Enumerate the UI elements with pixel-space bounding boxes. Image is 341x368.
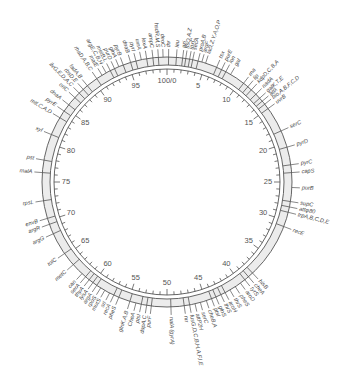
gene-leader-line (77, 274, 82, 280)
minute-label: 10 (222, 95, 230, 104)
minute-tick (237, 266, 239, 269)
gene-leader-line (231, 68, 235, 75)
gene-label: nalA (gyrA) (169, 317, 176, 345)
gene-leader-line (253, 273, 258, 279)
gene-leader-line (36, 201, 44, 202)
gene-leader-line (284, 227, 291, 230)
minute-tick (207, 77, 208, 80)
minute-label: 45 (194, 273, 202, 282)
gene-leader-line (152, 50, 153, 58)
gene-leader-line (78, 83, 83, 89)
minute-tick (226, 274, 228, 277)
minute-tick (106, 87, 108, 90)
gene-leader-line (221, 295, 224, 302)
minute-tick (62, 222, 65, 223)
gene-label: pyrC (299, 158, 313, 166)
gene-leader-line (260, 93, 266, 98)
minute-tick (76, 116, 81, 120)
minute-label: 35 (245, 236, 253, 245)
minute-tick (125, 77, 126, 80)
minute-tick (251, 252, 254, 254)
gene-leader-line (134, 303, 136, 311)
minute-tick (139, 288, 140, 291)
gene-leader-line (96, 288, 100, 295)
minute-tick (263, 235, 266, 237)
gene-leader-line (287, 145, 295, 147)
gene-leader-line (245, 280, 250, 286)
minute-tick (273, 209, 276, 210)
gene-leader-line (82, 80, 87, 86)
minute-tick (188, 71, 189, 74)
gene-leader-line (74, 87, 80, 93)
minute-tick (56, 203, 59, 204)
minute-tick (200, 284, 202, 290)
minute-tick (194, 288, 195, 291)
minute-tick (254, 245, 259, 249)
band-fill (46, 61, 288, 303)
minute-ticks (54, 69, 280, 295)
minute-tick (237, 95, 239, 98)
band-inner-ring (50, 65, 284, 299)
gene-band (42, 57, 292, 307)
minute-tick (269, 147, 275, 149)
minute-tick (266, 229, 269, 230)
minute-tick (207, 284, 208, 287)
minute-tick (90, 262, 92, 265)
gene-leader-line (244, 77, 249, 83)
gene-leader-line (36, 159, 44, 160)
gene-label: malA (19, 167, 32, 174)
gene-leader-line (268, 104, 274, 109)
gene-leader-line (128, 55, 130, 63)
minute-tick (214, 80, 215, 83)
gene-leader-line (42, 224, 50, 227)
gene-leader-line (183, 50, 184, 58)
gene-leader-line (212, 299, 215, 306)
minute-tick (251, 110, 254, 112)
gene-leader-line (107, 63, 111, 70)
minute-label: 5 (196, 81, 200, 90)
minute-tick (273, 154, 276, 155)
minute-label: 85 (81, 118, 89, 127)
minute-label: 90 (103, 95, 111, 104)
minute-label: 15 (245, 118, 253, 127)
gene-leader-line (225, 293, 229, 300)
minute-tick (259, 121, 262, 123)
gene-leader-line (206, 56, 208, 64)
minute-tick (188, 290, 189, 293)
gene-leader-line (195, 304, 197, 312)
minute-tick (263, 128, 266, 130)
gene-label: capS (301, 167, 314, 174)
gene-leader-line (57, 107, 64, 112)
minute-tick (85, 257, 88, 259)
gene-label: rpsL (22, 199, 34, 207)
minute-tick (72, 241, 75, 243)
minute-tick (125, 284, 126, 287)
minute-tick (259, 241, 262, 243)
minute-label: 50 (163, 278, 171, 287)
minute-tick (56, 161, 59, 162)
gene-leader-line (67, 265, 73, 270)
gene-leader-line (88, 283, 93, 289)
gene-leader-line (193, 52, 195, 60)
gene-leader-line (222, 62, 225, 69)
gene-leader-line (44, 131, 51, 134)
gene-label: tolC (46, 256, 58, 267)
minute-label: 95 (132, 81, 140, 90)
minute-tick (119, 281, 120, 284)
gene-label: nrr (183, 315, 190, 324)
gene-leader-line (292, 172, 300, 173)
gene-leader-line (289, 207, 297, 209)
minute-tick (146, 290, 147, 293)
gene-label: pst (25, 153, 35, 160)
minute-label: 70 (67, 208, 75, 217)
gene-leader-line (140, 304, 142, 312)
gene-leader-line (265, 99, 271, 104)
gene-leader-line (256, 89, 262, 95)
gene-leader-line (217, 60, 220, 67)
gene-leader-line (216, 297, 219, 304)
gene-leader-line (92, 285, 96, 292)
minute-tick (60, 215, 66, 217)
gene-leader-line (190, 305, 191, 313)
gene-leader-line (53, 114, 60, 118)
minute-tick (68, 235, 71, 237)
